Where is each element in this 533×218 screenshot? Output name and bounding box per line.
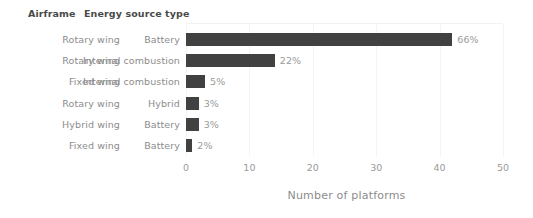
row-label-energy-source: Hybrid bbox=[148, 98, 180, 109]
x-axis-tick-50: 50 bbox=[497, 162, 509, 173]
bar[interactable] bbox=[186, 33, 452, 46]
x-axis-tick-40: 40 bbox=[434, 162, 446, 173]
bar-value-label: 3% bbox=[204, 98, 219, 109]
x-axis-tick-20: 20 bbox=[307, 162, 319, 173]
row-label-energy-source: Battery bbox=[144, 34, 180, 45]
bar-value-label: 66% bbox=[457, 34, 478, 45]
gridline-50 bbox=[503, 24, 504, 156]
row-label-airframe: Rotary wing bbox=[62, 98, 120, 109]
row-label-airframe: Fixed wing bbox=[69, 140, 120, 151]
column-header-airframe: Airframe bbox=[28, 8, 76, 19]
x-axis-title-text: Number of platforms bbox=[287, 189, 405, 202]
x-axis-tick-30: 30 bbox=[370, 162, 382, 173]
bar[interactable] bbox=[186, 54, 275, 67]
row-label-energy-source: Battery bbox=[144, 140, 180, 151]
bar[interactable] bbox=[186, 97, 199, 110]
row-label-airframe: Hybrid wing bbox=[62, 119, 120, 130]
x-axis-title: Number of platforms bbox=[0, 189, 533, 202]
bar[interactable] bbox=[186, 118, 199, 131]
column-header-energy-source-type: Energy source type bbox=[84, 8, 189, 19]
bar-value-label: 2% bbox=[197, 140, 212, 151]
bar-value-label: 3% bbox=[204, 119, 219, 130]
bar-value-label: 5% bbox=[210, 76, 225, 87]
row-label-energy-source: Internal combustion bbox=[83, 76, 180, 87]
row-label-energy-source: Internal combustion bbox=[83, 55, 180, 66]
bar[interactable] bbox=[186, 75, 205, 88]
bar-value-label: 22% bbox=[280, 55, 301, 66]
row-label-airframe: Rotary wing bbox=[62, 34, 120, 45]
bar[interactable] bbox=[186, 139, 192, 152]
row-label-energy-source: Battery bbox=[144, 119, 180, 130]
x-axis-tick-0: 0 bbox=[183, 162, 189, 173]
x-axis-tick-10: 10 bbox=[243, 162, 255, 173]
bar-chart-figure: Airframe Energy source type Rotary wingB… bbox=[0, 0, 533, 218]
